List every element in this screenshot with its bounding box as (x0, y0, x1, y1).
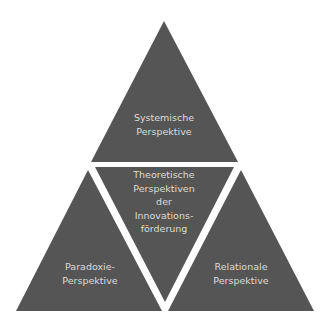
perspectives-triangle-diagram: Systemische Perspektive Theoretische Per… (0, 0, 332, 331)
top-segment-label: Systemische Perspektive (114, 111, 214, 139)
center-segment-label: Theoretische Perspektiven der Innovation… (114, 168, 214, 236)
right-segment-label: Relationale Perspektive (191, 260, 291, 288)
top-segment (91, 21, 238, 162)
left-segment-label: Paradoxie- Perspektive (40, 260, 140, 288)
